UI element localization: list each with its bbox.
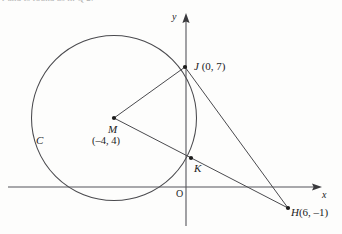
x-axis-label: x [322, 190, 326, 200]
point-label-H-coords: (6, –1) [299, 206, 328, 218]
y-axis-label: y [172, 12, 176, 22]
circle-label-C: C [36, 135, 43, 146]
point-marker-M [112, 116, 116, 120]
point-label-J: J (0, 7) [194, 61, 225, 72]
point-label-M: M [108, 124, 117, 135]
diagram-canvas [0, 0, 342, 234]
point-label-M-coords: (–4, 4) [92, 136, 120, 147]
geometry-figure: r and is found as in Q 2. J (0, 7) M (–4… [0, 0, 342, 234]
point-label-H: H(6, –1) [291, 207, 328, 218]
y-axis [182, 13, 189, 226]
segment-MJ [114, 67, 185, 118]
point-marker-K [189, 156, 193, 160]
point-marker-J [183, 65, 187, 69]
point-label-J-name: J [194, 60, 199, 72]
point-label-J-coords: (0, 7) [202, 60, 226, 72]
origin-label: O [176, 189, 183, 199]
point-label-K: K [194, 163, 201, 174]
point-label-H-name: H [291, 206, 299, 218]
point-marker-H [286, 206, 290, 210]
